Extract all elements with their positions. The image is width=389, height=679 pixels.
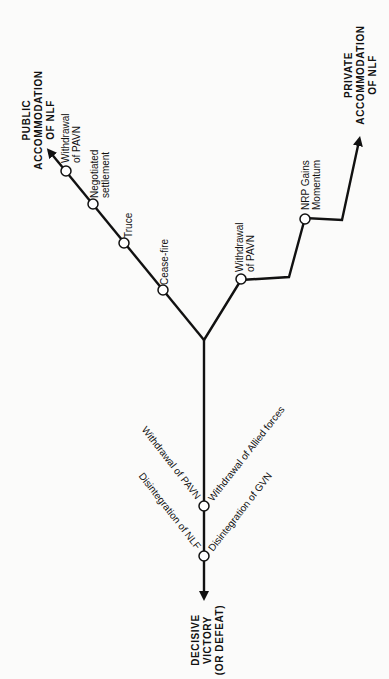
svg-text:NRP Gains: NRP Gains xyxy=(300,160,311,210)
svg-text:OF NLF: OF NLF xyxy=(367,55,378,95)
node-disintegration-gvn xyxy=(199,551,209,561)
node-withdrawal-pavn-public xyxy=(61,166,71,176)
label-withdrawal-pavn-private: Withdrawal of PAVN xyxy=(234,223,256,272)
svg-text:settlement: settlement xyxy=(100,152,111,198)
label-truce: Truce xyxy=(123,212,134,238)
svg-text:PUBLIC: PUBLIC xyxy=(21,100,32,141)
svg-text:VICTORY: VICTORY xyxy=(202,616,213,664)
node-negotiated-settlement xyxy=(88,199,98,209)
label-withdrawal-pavn-public: Withdrawal of PAVN xyxy=(60,114,82,163)
node-nrp-gains xyxy=(300,214,310,224)
svg-text:OF NLF: OF NLF xyxy=(45,100,56,140)
svg-text:Withdrawal: Withdrawal xyxy=(60,114,71,163)
node-cease-fire xyxy=(158,285,168,295)
node-withdrawal-pavn-private xyxy=(236,274,246,284)
label-negotiated-settlement: Negotiated settlement xyxy=(89,150,111,198)
svg-text:of PAVN: of PAVN xyxy=(71,126,82,163)
svg-text:ACCOMMODATION: ACCOMMODATION xyxy=(33,70,44,169)
node-withdrawal-allied xyxy=(199,501,209,511)
svg-text:DECISIVE: DECISIVE xyxy=(190,614,201,665)
label-withdrawal-allied: Withdrawal of Allied forces xyxy=(206,404,287,503)
label-nrp-gains: NRP Gains Momentum xyxy=(300,160,322,210)
svg-text:Momentum: Momentum xyxy=(311,160,322,210)
diagram-canvas: PUBLIC ACCOMMODATION OF NLF PRIVATE ACCO… xyxy=(0,0,389,679)
svg-text:Withdrawal: Withdrawal xyxy=(234,223,245,272)
svg-text:Withdrawal of Allied forces: Withdrawal of Allied forces xyxy=(206,404,287,503)
outcome-private: PRIVATE ACCOMMODATION OF NLF xyxy=(343,25,378,124)
svg-text:(OR DEFEAT): (OR DEFEAT) xyxy=(214,605,225,675)
label-cease-fire: Cease-fire xyxy=(159,238,170,285)
private-branch-line xyxy=(204,141,359,340)
path-diagram: PUBLIC ACCOMMODATION OF NLF PRIVATE ACCO… xyxy=(0,0,389,679)
svg-text:of PAVN: of PAVN xyxy=(245,235,256,272)
svg-text:Truce: Truce xyxy=(123,212,134,238)
svg-text:Cease-fire: Cease-fire xyxy=(159,238,170,285)
svg-text:Negotiated: Negotiated xyxy=(89,150,100,198)
svg-text:ACCOMMODATION: ACCOMMODATION xyxy=(355,25,366,124)
outcome-decisive: DECISIVE VICTORY (OR DEFEAT) xyxy=(190,605,225,675)
svg-text:PRIVATE: PRIVATE xyxy=(343,52,354,98)
node-truce xyxy=(119,238,129,248)
